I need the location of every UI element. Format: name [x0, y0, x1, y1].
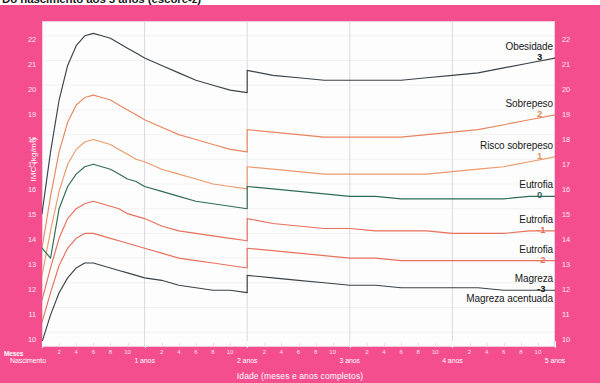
month-tick-mark	[110, 343, 111, 347]
y-tick-right: 14	[562, 235, 584, 244]
month-tick-mark	[299, 343, 300, 347]
y-tick-left: 15	[14, 210, 36, 219]
month-tick-mark	[384, 343, 385, 347]
year-mark	[452, 341, 453, 348]
month-tick-label: 4	[379, 349, 389, 355]
legend-zscore-2: 1	[537, 150, 553, 161]
y-tick-right: 12	[562, 285, 584, 294]
year-label: 1 anos	[113, 357, 177, 364]
y-tick-left: 16	[14, 185, 36, 194]
y-tick-left: 19	[14, 110, 36, 119]
month-tick-label: 2	[54, 349, 64, 355]
y-tick-left: 18	[14, 135, 36, 144]
month-tick-label: 8	[516, 349, 526, 355]
month-tick-mark	[179, 343, 180, 347]
month-tick-label: 10	[533, 349, 543, 355]
month-tick-label: 8	[311, 349, 321, 355]
month-tick-label: 10	[328, 349, 338, 355]
month-tick-mark	[316, 343, 317, 347]
month-tick-mark	[76, 343, 77, 347]
y-tick-right: 11	[562, 310, 584, 319]
month-tick-label: 4	[482, 349, 492, 355]
y-tick-left: 14	[14, 235, 36, 244]
month-tick-mark	[435, 343, 436, 347]
curve-z0-after-2y	[247, 186, 555, 198]
month-tick-label: 6	[499, 349, 509, 355]
month-tick-label: 4	[276, 349, 286, 355]
curve-z-2-after-2y	[247, 248, 555, 260]
year-label: 2 anos	[215, 357, 279, 364]
month-tick-mark	[504, 343, 505, 347]
month-tick-mark	[162, 343, 163, 347]
y-tick-left: 13	[14, 260, 36, 269]
year-mark	[555, 341, 556, 348]
legend-label-7: Magreza acentuada	[466, 293, 553, 304]
y-tick-right: 22	[562, 35, 584, 44]
month-tick-label: 8	[208, 349, 218, 355]
month-tick-mark	[264, 343, 265, 347]
month-tick-label: 2	[362, 349, 372, 355]
year-mark	[350, 341, 351, 348]
month-tick-label: 6	[191, 349, 201, 355]
month-tick-label: 8	[105, 349, 115, 355]
month-tick-label: 10	[430, 349, 440, 355]
month-tick-label: 8	[413, 349, 423, 355]
y-tick-left: 21	[14, 60, 36, 69]
month-tick-mark	[281, 343, 282, 347]
month-tick-label: 6	[88, 349, 98, 355]
month-tick-label: 2	[259, 349, 269, 355]
y-tick-right: 20	[562, 85, 584, 94]
month-tick-mark	[367, 343, 368, 347]
month-tick-mark	[230, 343, 231, 347]
months-axis-caption: Meses	[4, 350, 23, 357]
month-tick-label: 2	[465, 349, 475, 355]
legend-zscore-0: 3	[537, 51, 553, 62]
legend-zscore-3: 0	[537, 189, 553, 200]
year-label: 4 anos	[420, 357, 484, 364]
y-tick-right: 19	[562, 110, 584, 119]
year-mark-birth	[42, 341, 43, 348]
y-tick-right: 17	[562, 160, 584, 169]
month-tick-label: 6	[396, 349, 406, 355]
curve-z-1-after-2y	[247, 219, 555, 234]
y-tick-left: 10	[14, 335, 36, 344]
month-tick-label: 10	[225, 349, 235, 355]
month-tick-mark	[521, 343, 522, 347]
page-title: Do nascimento aos 5 anos (escore-z)	[2, 0, 201, 5]
y-tick-left: 17	[14, 160, 36, 169]
y-tick-right: 13	[562, 260, 584, 269]
y-tick-left: 22	[14, 35, 36, 44]
month-tick-mark	[196, 343, 197, 347]
month-tick-mark	[470, 343, 471, 347]
month-tick-mark	[487, 343, 488, 347]
month-tick-mark	[59, 343, 60, 347]
month-tick-mark	[401, 343, 402, 347]
month-tick-label: 4	[71, 349, 81, 355]
year-label: 3 anos	[318, 357, 382, 364]
year-label: 5 anos	[523, 357, 587, 364]
month-tick-label: 4	[174, 349, 184, 355]
y-tick-left: 20	[14, 85, 36, 94]
y-tick-left: 12	[14, 285, 36, 294]
month-tick-mark	[418, 343, 419, 347]
y-tick-right: 15	[562, 210, 584, 219]
curve-z2-after-2y	[247, 115, 555, 137]
month-tick-label: 10	[123, 349, 133, 355]
poster-panel: IMC (kg/m²) 22 21 20 19 18 17 16 15 14 1…	[0, 5, 600, 383]
month-tick-mark	[93, 343, 94, 347]
y-tick-right: 16	[562, 185, 584, 194]
month-tick-label: 6	[294, 349, 304, 355]
y-tick-right: 21	[562, 60, 584, 69]
legend-zscore-4: -1	[537, 224, 553, 235]
month-tick-mark	[333, 343, 334, 347]
month-tick-label: 2	[157, 349, 167, 355]
y-tick-right: 10	[562, 335, 584, 344]
x-axis-label: Idade (meses e anos completos)	[0, 371, 600, 381]
month-tick-mark	[128, 343, 129, 347]
year-mark	[145, 341, 146, 348]
month-tick-mark	[213, 343, 214, 347]
birth-label: Nascimento	[10, 357, 46, 364]
month-tick-mark	[538, 343, 539, 347]
curve-z3-after-2y	[247, 58, 555, 80]
legend-zscore-1: 2	[537, 108, 553, 119]
